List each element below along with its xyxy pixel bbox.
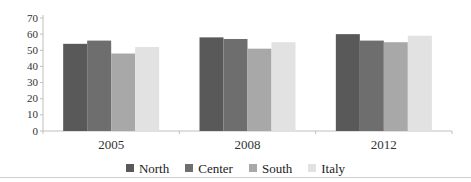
bar-italy-2005 [135, 47, 159, 131]
bar-center-2012 [360, 41, 384, 131]
legend-item-center: Center [185, 162, 233, 175]
legend-item-north: North [126, 162, 169, 175]
y-axis-tick-label: 70 [27, 12, 39, 24]
bar-north-2012 [336, 34, 360, 131]
bar-south-2012 [384, 42, 408, 131]
bar-italy-2008 [272, 42, 296, 131]
bar-north-2005 [63, 44, 87, 131]
y-axis-tick-label: 50 [27, 44, 39, 56]
chart-legend: NorthCenterSouthItaly [0, 160, 471, 176]
figure-container: 010203040506070200520082012 NorthCenterS… [0, 0, 471, 182]
x-axis-category-label: 2008 [235, 137, 261, 152]
legend-swatch-north [126, 164, 134, 172]
bar-north-2008 [200, 37, 224, 131]
y-axis-tick-label: 0 [33, 125, 39, 137]
y-axis-tick-label: 40 [27, 60, 39, 72]
legend-label-north: North [139, 162, 169, 175]
legend-swatch-center [185, 164, 193, 172]
x-axis-category-label: 2005 [98, 137, 124, 152]
legend-label-center: Center [198, 162, 233, 175]
legend-item-italy: Italy [308, 162, 345, 175]
y-axis-tick-label: 60 [27, 28, 39, 40]
y-axis-tick-label: 20 [27, 92, 39, 104]
y-axis-tick-label: 10 [27, 108, 39, 120]
x-axis-category-label: 2012 [371, 137, 397, 152]
bar-italy-2012 [408, 36, 432, 131]
legend-swatch-south [249, 164, 257, 172]
bar-chart: 010203040506070200520082012 [0, 0, 471, 158]
bar-south-2005 [111, 54, 135, 131]
legend-label-italy: Italy [321, 162, 345, 175]
bar-center-2008 [224, 39, 248, 131]
y-axis-tick-label: 30 [27, 76, 39, 88]
bar-south-2008 [248, 49, 272, 131]
legend-item-south: South [249, 162, 292, 175]
legend-swatch-italy [308, 164, 316, 172]
bar-center-2005 [87, 41, 111, 131]
legend-label-south: South [262, 162, 292, 175]
figure-bottom-rule [0, 177, 471, 178]
